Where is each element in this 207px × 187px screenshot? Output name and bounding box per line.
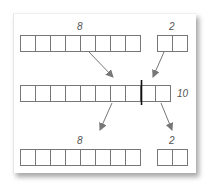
bottom-label-2: 2 bbox=[169, 136, 175, 146]
top-label-2: 2 bbox=[169, 22, 175, 32]
top-array-8 bbox=[21, 36, 141, 52]
bottom-label-8: 8 bbox=[77, 136, 83, 146]
arrow-icon bbox=[153, 52, 164, 77]
bottom-array-8 bbox=[21, 150, 141, 166]
arrow-icon bbox=[89, 52, 113, 77]
arrow-icon bbox=[100, 103, 112, 130]
arrow-icon bbox=[161, 103, 172, 130]
bottom-array-2 bbox=[158, 150, 188, 166]
top-label-8: 8 bbox=[77, 22, 83, 32]
middle-array-10 bbox=[21, 86, 171, 102]
diagram-canvas bbox=[0, 0, 207, 187]
top-array-2 bbox=[158, 36, 188, 52]
middle-label-10: 10 bbox=[177, 89, 188, 99]
